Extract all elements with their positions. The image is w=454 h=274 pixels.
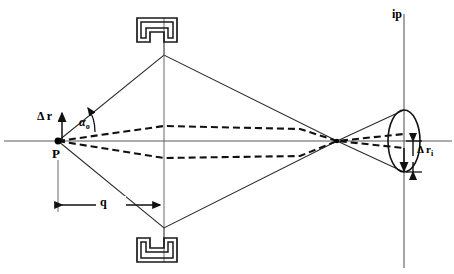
aperture-angle-label: αo <box>79 116 90 131</box>
crossover-marker <box>335 139 339 143</box>
image-disc-symbol: Δ r <box>417 143 431 155</box>
image-disc-subscript: i <box>431 149 433 158</box>
object-point-marker <box>55 138 62 145</box>
object-distance-label: q <box>100 196 107 208</box>
ray-diagram-svg <box>0 0 454 274</box>
pole-piece-top-icon <box>137 18 177 42</box>
aperture-angle-subscript: o <box>86 122 90 131</box>
image-disc-label: Δ ri <box>417 144 433 158</box>
image-plane-label: ip <box>392 8 402 20</box>
marginal-ray-upper <box>58 55 404 172</box>
pole-piece-bottom-icon <box>137 238 177 262</box>
delta-r-label: Δ r <box>37 110 52 122</box>
paraxial-ray-lower <box>58 141 404 158</box>
object-point-label: P <box>52 147 60 160</box>
dimension-q <box>62 196 160 212</box>
aperture-angle-symbol: α <box>79 115 86 129</box>
figure-canvas: Δ r P αo q ip Δ ri <box>0 0 454 274</box>
